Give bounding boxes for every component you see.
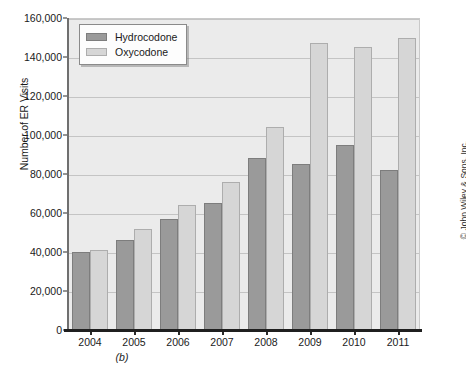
figure-caption-text: (b) <box>116 351 129 363</box>
figure-caption: (b) <box>0 351 466 363</box>
bar-oxycodone-2008 <box>266 127 284 330</box>
x-tick-label: 2007 <box>210 336 233 348</box>
y-tick-label: 20,000 <box>30 285 62 297</box>
copyright-credit: © John Wiley & Sons, Inc. <box>459 110 466 270</box>
x-tick-label: 2010 <box>342 336 365 348</box>
bar-oxycodone-2007 <box>222 182 240 330</box>
legend-label-oxycodone: Oxycodone <box>115 46 168 58</box>
bar-group <box>156 19 200 330</box>
y-axis-line <box>67 18 69 330</box>
bar-group <box>288 19 332 330</box>
x-tick-label: 2011 <box>387 336 410 348</box>
y-axis-tick-labels: 020,00040,00060,00080,000100,000120,0001… <box>0 0 66 369</box>
bar-chart-figure: Number of ER Visits 020,00040,00060,0008… <box>0 0 466 369</box>
bar-oxycodone-2010 <box>354 47 372 330</box>
bar-oxycodone-2009 <box>310 43 328 330</box>
y-tick-label: 120,000 <box>24 90 62 102</box>
y-tick-label: 60,000 <box>30 207 62 219</box>
bar-hydrocodone-2011 <box>380 170 398 330</box>
bar-group <box>68 19 112 330</box>
x-tick-label: 2005 <box>122 336 145 348</box>
bar-group <box>376 19 420 330</box>
x-tick-label: 2004 <box>78 336 101 348</box>
bar-hydrocodone-2010 <box>336 145 354 330</box>
bar-hydrocodone-2007 <box>204 203 222 330</box>
y-tick-label: 80,000 <box>30 168 62 180</box>
bar-group <box>200 19 244 330</box>
x-tick-label: 2008 <box>254 336 277 348</box>
y-tick-label: 140,000 <box>24 51 62 63</box>
legend-label-hydrocodone: Hydrocodone <box>115 31 177 43</box>
bar-hydrocodone-2005 <box>116 240 134 330</box>
chart-legend: Hydrocodone Oxycodone <box>79 24 187 65</box>
bar-group <box>244 19 288 330</box>
bar-oxycodone-2004 <box>90 250 108 330</box>
y-tick-label: 40,000 <box>30 246 62 258</box>
legend-swatch-oxycodone <box>86 48 107 56</box>
x-tick-label: 2006 <box>166 336 189 348</box>
x-axis-line <box>64 329 422 332</box>
bar-hydrocodone-2008 <box>248 158 266 330</box>
bar-oxycodone-2005 <box>134 229 152 330</box>
bar-group <box>112 19 156 330</box>
y-tick-label: 100,000 <box>24 129 62 141</box>
y-tick-label: 0 <box>56 324 62 336</box>
bar-hydrocodone-2004 <box>72 252 90 330</box>
bar-hydrocodone-2006 <box>160 219 178 330</box>
bar-hydrocodone-2009 <box>292 164 310 330</box>
bar-group <box>332 19 376 330</box>
x-tick-label: 2009 <box>298 336 321 348</box>
legend-item-hydrocodone: Hydrocodone <box>86 29 177 44</box>
legend-item-oxycodone: Oxycodone <box>86 44 177 59</box>
bar-oxycodone-2006 <box>178 205 196 330</box>
y-tick-label: 160,000 <box>24 12 62 24</box>
bar-oxycodone-2011 <box>398 38 416 331</box>
legend-swatch-hydrocodone <box>86 33 107 41</box>
